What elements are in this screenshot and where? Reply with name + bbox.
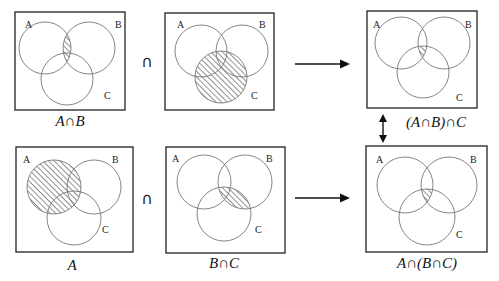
intersection-operator-top: ∩ [141, 52, 153, 71]
label-b: B [112, 154, 119, 165]
panel-a: A B C A [16, 147, 133, 273]
label-c: C [251, 90, 258, 101]
circle-a [375, 17, 427, 69]
panel-a-intersect-b: A B C A∩B [15, 12, 125, 129]
label-c: C [104, 90, 111, 101]
panel-b-intersect-c: A B C B∩C [166, 147, 285, 271]
panel-a-intersect-b-intersect-c: A B C (A∩B)∩C [367, 11, 477, 131]
caption-ab-intersect-c: (A∩B)∩C [406, 114, 467, 131]
label-c: C [255, 224, 262, 235]
label-c: C [456, 92, 463, 103]
label-a: A [177, 19, 185, 30]
caption-b-intersect-c: B∩C [209, 255, 240, 271]
label-b: B [259, 19, 266, 30]
panel-a-intersect-bc: A B C A∩(B∩C) [366, 146, 487, 272]
intersection-operator-bottom: ∩ [141, 189, 153, 208]
circle-b [418, 17, 470, 69]
label-b: B [465, 19, 472, 30]
arrow-right-bottom [295, 194, 350, 203]
label-a: A [373, 19, 381, 30]
label-a: A [172, 153, 180, 164]
circle-b [421, 157, 477, 213]
label-b: B [115, 19, 122, 30]
panel-c: A B C [165, 13, 274, 110]
caption-a-intersect-bc: A∩(B∩C) [396, 255, 457, 272]
label-a: A [25, 19, 33, 30]
label-c: C [102, 224, 109, 235]
circle-a [377, 157, 433, 213]
caption-a: A [66, 257, 77, 273]
label-c: C [456, 229, 463, 240]
label-a: A [23, 154, 31, 165]
equivalence-double-arrow [379, 114, 387, 143]
arrow-right-top [295, 60, 350, 69]
label-b: B [470, 154, 477, 165]
circle-a [177, 155, 231, 209]
associativity-venn-diagram: A B C A∩B ∩ A B C A B C (A∩B)∩C [0, 0, 499, 281]
caption-a-intersect-b: A∩B [54, 113, 84, 129]
label-b: B [266, 153, 273, 164]
label-a: A [376, 154, 384, 165]
